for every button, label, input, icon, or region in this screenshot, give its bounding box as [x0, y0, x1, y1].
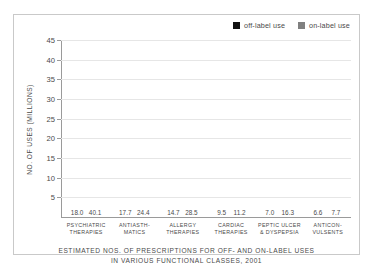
category-line-1: PEPTIC ULCER	[255, 222, 303, 229]
bar-value-on-label: 11.2	[234, 209, 246, 216]
bar-value-off-label: 7.0	[265, 209, 274, 216]
bar-value-on-label: 28.5	[185, 209, 197, 216]
plot-area: 45 40 35 30 25 20 15 10 5 18.0	[61, 40, 351, 218]
y-tick-label: 25	[47, 114, 55, 123]
bar-group-peptic-ulcer-dyspepsia: 7.0 16.3	[255, 40, 303, 217]
bar-value-on-label: 7.7	[331, 209, 340, 216]
category-line-2: VULSENTS	[304, 229, 352, 236]
category-label-antiasthmatics: ANTIASTH- MATICS	[110, 222, 158, 237]
x-axis-category-labels: PSYCHIATRIC THERAPIES ANTIASTH- MATICS A…	[62, 222, 352, 237]
category-line-2: & DYSPEPSIA	[255, 229, 303, 236]
caption-line-1: ESTIMATED NOS. OF PRESCRIPTIONS FOR OFF-…	[14, 246, 359, 256]
legend-item-off-label: off-label use	[233, 21, 285, 30]
y-tick-mark	[57, 60, 61, 61]
category-line-1: ANTIASTH-	[110, 222, 158, 229]
y-tick-mark	[57, 119, 61, 120]
bar-value-off-label: 14.7	[167, 209, 179, 216]
y-tick-label: 5	[51, 193, 55, 202]
category-label-cardiac-therapies: CARDIAC THERAPIES	[207, 222, 255, 237]
y-axis-title-text: NO. OF USES (MILLIONS)	[26, 84, 33, 175]
category-line-2: THERAPIES	[207, 229, 255, 236]
bar-group-allergy-therapies: 14.7 28.5	[158, 40, 206, 217]
bar-value-off-label: 17.7	[119, 209, 131, 216]
category-line-2: THERAPIES	[159, 229, 207, 236]
x-axis-line	[61, 217, 351, 218]
y-tick-mark	[57, 79, 61, 80]
bar-group-antiasthmatics: 17.7 24.4	[110, 40, 158, 217]
caption-line-2: IN VARIOUS FUNCTIONAL CLASSES, 2001	[14, 256, 359, 266]
category-line-2: MATICS	[110, 229, 158, 236]
chart-legend: off-label use on-label use	[233, 21, 350, 30]
bar-group-cardiac-therapies: 9.5 11.2	[207, 40, 255, 217]
category-label-psychiatric-therapies: PSYCHIATRIC THERAPIES	[62, 222, 110, 237]
legend-item-on-label: on-label use	[298, 21, 350, 30]
y-tick-label: 15	[47, 154, 55, 163]
bar-value-on-label: 16.3	[282, 209, 294, 216]
category-label-peptic-ulcer-dyspepsia: PEPTIC ULCER & DYSPEPSIA	[255, 222, 303, 237]
category-line-1: ALLERGY	[159, 222, 207, 229]
square-swatch-icon	[233, 22, 240, 29]
chart-caption: ESTIMATED NOS. OF PRESCRIPTIONS FOR OFF-…	[14, 246, 359, 266]
category-line-1: PSYCHIATRIC	[62, 222, 110, 229]
bar-value-on-label: 40.1	[89, 209, 101, 216]
bar-group-anticonvulsents: 6.6 7.7	[303, 40, 351, 217]
category-line-1: ANTICON-	[304, 222, 352, 229]
bar-value-on-label: 24.4	[137, 209, 149, 216]
bar-value-off-label: 9.5	[217, 209, 226, 216]
bar-value-off-label: 6.6	[313, 209, 322, 216]
y-tick-label: 20	[47, 134, 55, 143]
chart-figure: off-label use on-label use NO. OF USES (…	[13, 14, 360, 255]
y-tick-mark	[57, 40, 61, 41]
square-swatch-icon	[298, 22, 305, 29]
y-tick-label: 45	[47, 36, 55, 45]
y-tick-mark	[57, 197, 61, 198]
y-tick-label: 40	[47, 55, 55, 64]
y-tick-mark	[57, 178, 61, 179]
bar-value-off-label: 18.0	[71, 209, 83, 216]
category-label-allergy-therapies: ALLERGY THERAPIES	[159, 222, 207, 237]
category-line-2: THERAPIES	[62, 229, 110, 236]
y-tick-label: 30	[47, 95, 55, 104]
y-tick-label: 35	[47, 75, 55, 84]
legend-label-on-label: on-label use	[309, 21, 350, 30]
category-line-1: CARDIAC	[207, 222, 255, 229]
category-label-anticonvulsents: ANTICON- VULSENTS	[304, 222, 352, 237]
y-tick-label: 10	[47, 173, 55, 182]
y-axis-title: NO. OF USES (MILLIONS)	[23, 40, 35, 218]
y-tick-mark	[57, 158, 61, 159]
y-tick-mark	[57, 138, 61, 139]
y-tick-mark	[57, 99, 61, 100]
bar-groups: 18.0 40.1 17.7 24.4	[62, 40, 351, 217]
bar-group-psychiatric-therapies: 18.0 40.1	[62, 40, 110, 217]
legend-label-off-label: off-label use	[244, 21, 285, 30]
